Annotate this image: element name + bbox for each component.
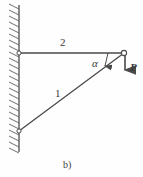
force-p-label: P [130,62,137,73]
member-2-label: 2 [60,37,66,48]
support-pin-lower [17,129,21,133]
figure-container: 2 1 α P b) [0,0,143,177]
angle-arc-marker [105,53,108,66]
member-1-line [19,53,124,131]
figure-caption: b) [63,160,71,170]
angle-alpha-label: α [92,58,98,69]
support-pin-upper [17,51,21,55]
member-1-label: 1 [55,88,61,99]
joint-node-right [121,50,126,55]
truss-diagram [0,0,143,177]
